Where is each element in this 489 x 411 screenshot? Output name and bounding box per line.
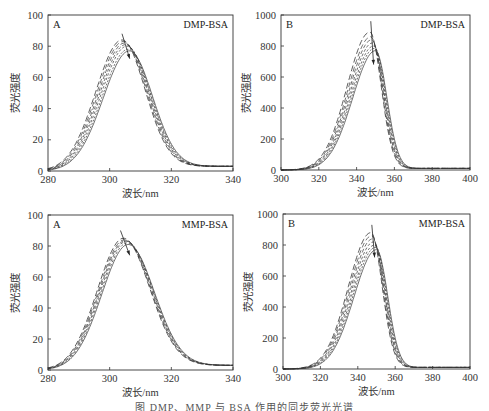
x-tick-label: 320 bbox=[163, 174, 179, 185]
series-group bbox=[283, 233, 470, 369]
y-axis-label: 荧光强度 bbox=[9, 272, 21, 313]
series-line-curve-3 bbox=[283, 239, 470, 369]
y-tick-label: 20 bbox=[33, 334, 44, 345]
chart-bottom-left: 280300320340020406080100AMMP-BSA波长/nm荧光强… bbox=[9, 210, 241, 399]
x-tick-label: 320 bbox=[311, 173, 327, 184]
x-tick-label: 400 bbox=[462, 173, 478, 184]
y-tick-label: 100 bbox=[27, 210, 43, 221]
y-tick-label: 0 bbox=[38, 166, 43, 177]
series-group bbox=[48, 238, 233, 368]
series-line-curve-4 bbox=[281, 43, 470, 170]
series-line-curve-7 bbox=[281, 51, 470, 170]
y-tick-label: 60 bbox=[33, 272, 44, 283]
y-tick-label: 100 bbox=[27, 10, 43, 21]
axes-frame bbox=[283, 214, 470, 369]
y-tick-label: 200 bbox=[262, 333, 278, 344]
panel-label: A bbox=[53, 19, 61, 30]
y-tick-label: 40 bbox=[33, 103, 44, 114]
x-axis-label: 波长/nm bbox=[122, 386, 158, 398]
series-line-curve-2 bbox=[283, 236, 470, 369]
series-line-curve-2 bbox=[281, 37, 470, 170]
chart-top-right: 30032034036038040002004006008001000BDMP-… bbox=[240, 10, 478, 199]
arrow-head-icon bbox=[372, 60, 375, 65]
series-group bbox=[48, 40, 233, 170]
y-tick-label: 800 bbox=[260, 41, 276, 52]
x-axis-label: 波长/nm bbox=[358, 385, 394, 397]
axes-frame bbox=[281, 15, 470, 170]
panel-label: A bbox=[53, 219, 61, 230]
arrow-head-icon bbox=[127, 54, 130, 59]
y-tick-label: 400 bbox=[262, 302, 278, 313]
panel-label: B bbox=[286, 19, 293, 30]
figure-canvas: 280300320340020406080100ADMP-BSA波长/nm荧光强… bbox=[0, 0, 489, 411]
x-tick-label: 380 bbox=[424, 173, 440, 184]
x-tick-label: 400 bbox=[462, 372, 478, 383]
x-tick-label: 320 bbox=[313, 372, 329, 383]
y-tick-label: 80 bbox=[33, 41, 44, 52]
chart-bottom-right: 30032034036038040002004006008001000BMMP-… bbox=[242, 209, 478, 398]
x-tick-label: 320 bbox=[163, 373, 179, 384]
x-tick-label: 360 bbox=[387, 372, 403, 383]
y-axis-label: 荧光强度 bbox=[9, 72, 21, 113]
figure: 280300320340020406080100ADMP-BSA波长/nm荧光强… bbox=[0, 0, 489, 411]
series-line-curve-4 bbox=[283, 242, 470, 369]
y-tick-label: 0 bbox=[271, 165, 276, 176]
series-line-curve-5 bbox=[283, 245, 470, 369]
x-tick-label: 360 bbox=[387, 173, 403, 184]
y-tick-label: 600 bbox=[260, 72, 276, 83]
x-tick-label: 340 bbox=[225, 373, 241, 384]
y-tick-label: 600 bbox=[262, 271, 278, 282]
y-tick-label: 1000 bbox=[255, 10, 276, 21]
series-line-curve-6 bbox=[281, 48, 470, 170]
y-tick-label: 0 bbox=[273, 364, 278, 375]
chart-title: DMP-BSA bbox=[184, 19, 229, 30]
arrow-head-icon bbox=[126, 250, 129, 255]
y-tick-label: 80 bbox=[33, 241, 44, 252]
chart-top-left: 280300320340020406080100ADMP-BSA波长/nm荧光强… bbox=[9, 10, 241, 200]
chart-title: MMP-BSA bbox=[419, 218, 466, 229]
x-tick-label: 340 bbox=[350, 372, 366, 383]
series-line-curve-1 bbox=[48, 40, 233, 169]
panel-label: B bbox=[288, 218, 295, 229]
axes-frame bbox=[48, 15, 233, 171]
chart-title: DMP-BSA bbox=[421, 19, 466, 30]
series-line-curve-3 bbox=[281, 40, 470, 170]
x-tick-label: 300 bbox=[102, 174, 118, 185]
series-line-curve-3 bbox=[48, 241, 233, 369]
series-line-curve-1 bbox=[281, 32, 470, 170]
series-line-curve-7 bbox=[283, 250, 470, 369]
y-tick-label: 800 bbox=[262, 240, 278, 251]
y-tick-label: 200 bbox=[260, 134, 276, 145]
figure-caption: 图 DMP、MMP 与 BSA 作用的同步荧光光谱 bbox=[0, 399, 489, 411]
series-line-curve-6 bbox=[48, 245, 233, 369]
series-line-curve-6 bbox=[283, 247, 470, 369]
x-axis-label: 波长/nm bbox=[357, 186, 393, 198]
x-tick-label: 300 bbox=[102, 373, 118, 384]
y-tick-label: 400 bbox=[260, 103, 276, 114]
y-tick-label: 40 bbox=[33, 303, 44, 314]
x-axis-label: 波长/nm bbox=[122, 187, 158, 199]
series-line-curve-3 bbox=[48, 43, 233, 169]
y-tick-label: 60 bbox=[33, 72, 44, 83]
series-line-curve-2 bbox=[48, 42, 233, 169]
series-group bbox=[281, 32, 470, 170]
y-axis-label: 荧光强度 bbox=[242, 271, 254, 312]
x-tick-label: 380 bbox=[425, 372, 441, 383]
x-tick-label: 340 bbox=[225, 174, 241, 185]
series-line-curve-1 bbox=[283, 233, 470, 369]
series-line-curve-5 bbox=[281, 46, 470, 170]
chart-title: MMP-BSA bbox=[182, 219, 229, 230]
trend-arrow bbox=[372, 225, 375, 258]
y-tick-label: 1000 bbox=[257, 209, 278, 220]
x-tick-label: 340 bbox=[349, 173, 365, 184]
y-axis-label: 荧光强度 bbox=[240, 72, 252, 113]
y-tick-label: 20 bbox=[33, 134, 44, 145]
y-tick-label: 0 bbox=[38, 365, 43, 376]
